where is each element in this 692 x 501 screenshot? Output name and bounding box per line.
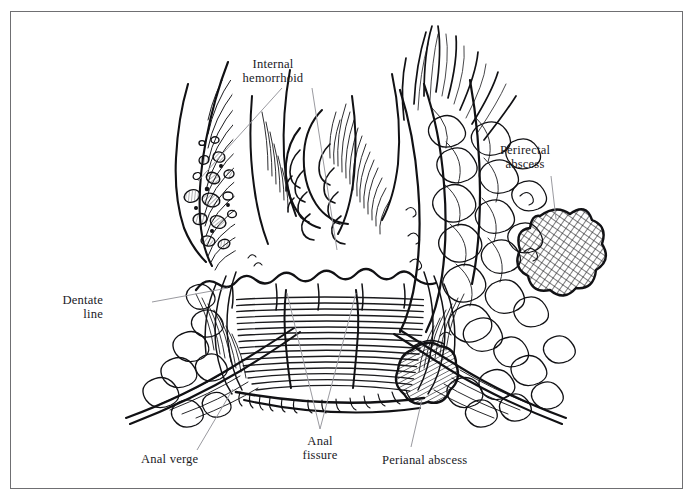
- label-internal-hemorrhoid: Internal hemorrhoid: [233, 57, 313, 86]
- label-anal-fissure: Anal fissure: [291, 434, 349, 463]
- leader-perianal-abscess: [411, 399, 422, 447]
- hemorrhoidal-venous-plexus: [182, 137, 236, 250]
- leader-dentate-line: [152, 288, 228, 302]
- levator-fibre-hatch: [418, 34, 506, 132]
- illustration-figure: Internal hemorrhoid Perirectal abscess D…: [0, 0, 692, 501]
- label-perirectal-abscess: Perirectal abscess: [487, 143, 563, 172]
- rectal-mucosa-columns: [250, 70, 399, 244]
- label-dentate-line: Dentate line: [33, 293, 103, 322]
- label-perianal-abscess: Perianal abscess: [382, 453, 467, 467]
- anorectal-cross-section-drawing: [0, 0, 692, 501]
- perirectal-abscess-mass: [517, 209, 606, 295]
- small-vessel-marks: [248, 193, 537, 337]
- leader-internal-hemorrhoid-left: [198, 88, 282, 181]
- perianal-abscess-mass: [396, 340, 458, 403]
- label-anal-verge: Anal verge: [141, 452, 198, 466]
